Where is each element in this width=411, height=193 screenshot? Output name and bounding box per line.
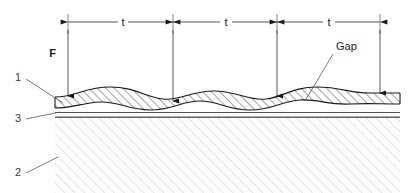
substrate-layer-2	[50, 115, 405, 193]
technical-diagram: t t t F Gap	[0, 0, 411, 193]
callout-ref-2: 2	[15, 157, 58, 178]
ref-2-label: 2	[15, 166, 21, 178]
figure-container: t t t F Gap	[0, 0, 411, 193]
pitch-label-2: t	[224, 16, 227, 28]
gap-label: Gap	[336, 40, 357, 52]
ref-1-leader-line	[26, 79, 63, 103]
callout-ref-3: 3	[15, 112, 60, 124]
ref-2-leader-line	[26, 157, 58, 173]
callout-ref-1: 1	[15, 71, 63, 103]
ref-1-label: 1	[15, 71, 21, 83]
force-label: F	[49, 47, 56, 59]
dimension-span-2: t	[173, 16, 277, 28]
pitch-label-3: t	[327, 16, 330, 28]
dimension-group-pitch: t t t	[68, 14, 380, 34]
flat-interlayer-3	[55, 113, 400, 118]
ref-3-label: 3	[15, 112, 21, 124]
ref-3-leader-line	[26, 112, 60, 119]
dimension-span-1: t	[68, 16, 173, 28]
wavy-sheet-layer-1	[55, 87, 400, 110]
dimension-span-3: t	[277, 16, 380, 28]
pitch-label-1: t	[121, 16, 124, 28]
